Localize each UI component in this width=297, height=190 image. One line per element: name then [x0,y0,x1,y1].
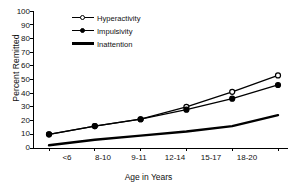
data-point [92,124,97,129]
data-point [276,73,281,78]
data-series-layer [47,73,281,145]
chart-container: Percent Remitted Age in Years 100 90 80 … [0,0,297,190]
data-point [184,107,189,112]
series-inattention [49,115,278,145]
data-point [276,82,281,87]
series-hyperactivity [47,73,281,137]
plot-area [0,0,297,190]
data-point [230,96,235,101]
series-impulsivity [47,82,281,136]
data-point [47,132,52,137]
data-point [230,89,235,94]
data-point [138,117,143,122]
axis-lines [30,11,288,151]
